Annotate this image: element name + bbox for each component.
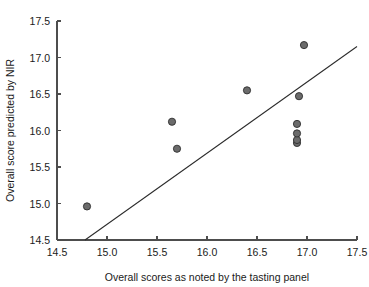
regression-line — [85, 47, 357, 240]
y-tick-label: 15.0 — [30, 198, 51, 210]
y-tick-label: 14.5 — [30, 234, 51, 246]
data-point — [293, 136, 300, 143]
plot-canvas: 14.515.015.516.016.517.017.514.515.015.5… — [0, 0, 369, 287]
x-tick-label: 17.5 — [347, 246, 368, 258]
data-point — [293, 130, 300, 137]
data-point — [295, 93, 302, 100]
data-point — [83, 203, 90, 210]
scatter-chart: 14.515.015.516.016.517.017.514.515.015.5… — [0, 0, 369, 287]
data-point — [293, 120, 300, 127]
x-tick-label: 15.0 — [97, 246, 118, 258]
x-axis-title: Overall scores as noted by the tasting p… — [105, 271, 309, 283]
y-tick-label: 16.5 — [30, 88, 51, 100]
data-point — [300, 41, 307, 48]
x-tick-label: 16.0 — [197, 246, 218, 258]
x-tick-label: 14.5 — [47, 246, 68, 258]
y-tick-label: 17.5 — [30, 15, 51, 27]
data-point — [243, 87, 250, 94]
y-tick-label: 17.0 — [30, 52, 51, 64]
y-tick-label: 15.5 — [30, 161, 51, 173]
data-point — [173, 145, 180, 152]
x-tick-label: 15.5 — [147, 246, 168, 258]
y-tick-label: 16.0 — [30, 125, 51, 137]
x-tick-label: 16.5 — [247, 246, 268, 258]
x-tick-label: 17.0 — [297, 246, 318, 258]
data-point — [168, 118, 175, 125]
y-axis-title: Overall score predicted by NIR — [4, 59, 16, 202]
